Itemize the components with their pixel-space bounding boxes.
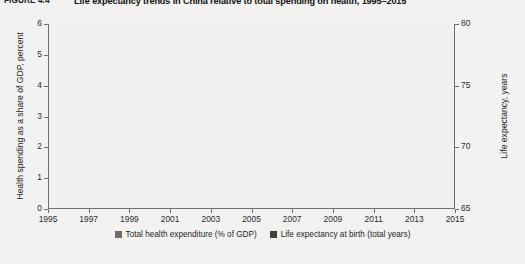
- axis-tick-label: 65: [461, 203, 470, 213]
- axis-tick-label: 2: [37, 141, 42, 151]
- axis-tick-label: 2003: [201, 214, 220, 224]
- axis-tick: [292, 209, 293, 213]
- chart-legend: Total health expenditure (% of GDP) Life…: [0, 230, 525, 239]
- axis-tick-label: 4: [37, 80, 42, 90]
- axis-tick: [455, 209, 456, 213]
- axis-tick: [333, 209, 334, 213]
- axis-tick-label: 70: [461, 141, 470, 151]
- y-axis-right-title: Life expectancy, years: [499, 41, 509, 191]
- axis-tick: [455, 86, 459, 87]
- page-title: Life expectancy trends in China relative…: [74, 0, 406, 6]
- axis-tick-label: 2001: [161, 214, 180, 224]
- axis-tick-label: 2011: [365, 214, 383, 224]
- axis-tick-label: 2009: [324, 214, 343, 224]
- axis-tick: [44, 117, 48, 118]
- axis-tick: [44, 55, 48, 56]
- axis-tick: [129, 209, 130, 213]
- axis-tick: [170, 209, 171, 213]
- axis-tick-label: 80: [461, 18, 470, 28]
- axis-tick: [455, 147, 459, 148]
- figure-number: FIGURE 4.4: [4, 0, 50, 5]
- axis-tick-label: 0: [37, 203, 42, 213]
- axis-tick-label: 2007: [283, 214, 302, 224]
- axis-tick: [44, 24, 48, 25]
- axis-tick-label: 1999: [120, 214, 139, 224]
- axis-tick: [44, 147, 48, 148]
- legend-label: Life expectancy at birth (total years): [281, 230, 411, 239]
- axis-tick: [374, 209, 375, 213]
- plot-background: [48, 24, 455, 209]
- axis-tick: [44, 86, 48, 87]
- axis-tick-label: 2005: [242, 214, 261, 224]
- axis-tick-label: 1995: [39, 214, 58, 224]
- axis-tick: [211, 209, 212, 213]
- figure-title-bar: FIGURE 4.4 Life expectancy trends in Chi…: [0, 0, 525, 12]
- y-axis-left-title: Health spending as a share of GDP, perce…: [15, 21, 25, 211]
- axis-tick: [252, 209, 253, 213]
- axis-tick-label: 2015: [446, 214, 465, 224]
- axis-tick-label: 2013: [405, 214, 424, 224]
- legend-item-life-expectancy: Life expectancy at birth (total years): [270, 230, 411, 239]
- axis-tick: [414, 209, 415, 213]
- axis-tick: [89, 209, 90, 213]
- axis-tick: [455, 24, 459, 25]
- axis-tick-label: 6: [37, 18, 42, 28]
- legend-swatch-icon: [270, 231, 277, 238]
- axis-tick-label: 1997: [79, 214, 98, 224]
- axis-tick-label: 1: [37, 172, 42, 182]
- plot-area: 0123456 65707580 19951997199920012003200…: [48, 24, 455, 209]
- figure-container: FIGURE 4.4 Life expectancy trends in Chi…: [0, 0, 525, 264]
- y-axis-left-line: [48, 24, 49, 209]
- axis-tick-label: 5: [37, 49, 42, 59]
- legend-item-total-health-expenditure: Total health expenditure (% of GDP): [115, 230, 257, 239]
- y-axis-right-line: [454, 24, 455, 209]
- axis-tick-label: 75: [461, 80, 470, 90]
- legend-swatch-icon: [115, 231, 122, 238]
- legend-label: Total health expenditure (% of GDP): [126, 230, 257, 239]
- axis-tick: [48, 209, 49, 213]
- axis-tick: [44, 178, 48, 179]
- axis-tick-label: 3: [37, 111, 42, 121]
